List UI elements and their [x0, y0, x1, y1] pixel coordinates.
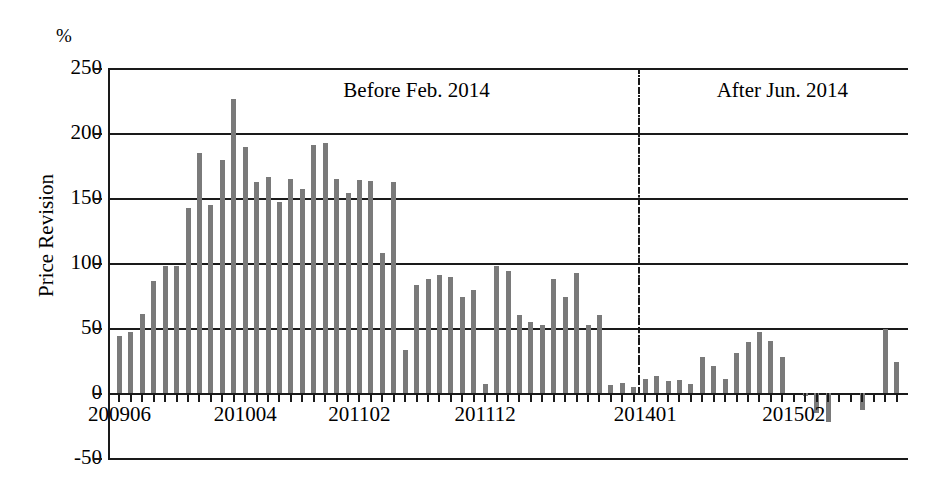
bar	[883, 329, 888, 393]
x-tick-mark	[473, 393, 475, 402]
bar	[151, 281, 156, 393]
bar	[197, 153, 202, 394]
bar	[551, 279, 556, 393]
x-axis-tick-marks	[108, 393, 908, 402]
x-tick-mark	[187, 393, 189, 402]
x-tick-mark	[576, 393, 578, 402]
y-axis-tick-labels: 250200150100500-50	[40, 68, 102, 458]
bar	[243, 147, 248, 393]
bar	[266, 177, 271, 393]
x-tick-mark	[198, 393, 200, 402]
x-tick-mark	[884, 393, 886, 402]
x-tick-label: 201112	[454, 404, 515, 425]
bar	[734, 353, 739, 393]
y-tick-mark	[93, 458, 102, 460]
x-tick-mark	[896, 393, 898, 402]
x-tick-mark	[381, 393, 383, 402]
bar	[380, 253, 385, 393]
bar	[894, 362, 899, 393]
y-tick-mark	[93, 263, 102, 265]
x-tick-mark	[873, 393, 875, 402]
bar	[574, 273, 579, 393]
x-tick-mark	[598, 393, 600, 402]
x-tick-label: 200906	[88, 404, 151, 425]
plot-area: Before Feb. 2014After Jun. 2014	[108, 68, 908, 458]
y-tick-mark	[93, 198, 102, 200]
bar	[494, 266, 499, 393]
bar	[517, 315, 522, 393]
gridline--50	[108, 458, 908, 460]
bar	[666, 381, 671, 393]
x-tick-mark	[621, 393, 623, 402]
bar	[357, 180, 362, 393]
x-tick-mark	[564, 393, 566, 402]
x-tick-mark	[358, 393, 360, 402]
x-tick-mark	[290, 393, 292, 402]
bar	[346, 193, 351, 393]
bar	[448, 277, 453, 393]
bar	[608, 385, 613, 393]
bar	[140, 314, 145, 393]
x-tick-mark	[393, 393, 395, 402]
bar	[391, 182, 396, 393]
x-tick-mark	[736, 393, 738, 402]
x-tick-mark	[678, 393, 680, 402]
bar	[677, 380, 682, 393]
x-tick-mark	[176, 393, 178, 402]
bar	[254, 182, 259, 393]
bar	[208, 205, 213, 394]
x-tick-mark	[690, 393, 692, 402]
x-tick-mark	[450, 393, 452, 402]
x-tick-mark	[461, 393, 463, 402]
x-tick-mark	[701, 393, 703, 402]
x-tick-mark	[301, 393, 303, 402]
x-tick-mark	[541, 393, 543, 402]
bar	[334, 179, 339, 394]
x-tick-mark	[861, 393, 863, 402]
x-tick-mark	[770, 393, 772, 402]
x-tick-mark	[267, 393, 269, 402]
x-tick-mark	[313, 393, 315, 402]
x-tick-mark	[221, 393, 223, 402]
x-tick-mark	[838, 393, 840, 402]
x-tick-label: 201102	[328, 404, 390, 425]
y-tick-mark	[93, 133, 102, 135]
bar	[586, 325, 591, 393]
x-tick-mark	[347, 393, 349, 402]
x-tick-mark	[850, 393, 852, 402]
x-tick-mark	[164, 393, 166, 402]
bar	[711, 366, 716, 393]
x-tick-mark	[233, 393, 235, 402]
bar	[323, 143, 328, 393]
bar	[311, 145, 316, 393]
x-tick-mark	[587, 393, 589, 402]
bar	[528, 322, 533, 394]
x-tick-mark	[644, 393, 646, 402]
y-tick-mark	[93, 393, 102, 395]
annotation-label: After Jun. 2014	[717, 80, 848, 101]
bar	[483, 384, 488, 393]
bar	[688, 384, 693, 393]
bar	[220, 160, 225, 393]
x-tick-mark	[141, 393, 143, 402]
x-tick-mark	[256, 393, 258, 402]
annotation-label: Before Feb. 2014	[343, 80, 489, 101]
x-tick-mark	[118, 393, 120, 402]
regime-divider-dots	[638, 68, 640, 393]
bar	[437, 275, 442, 393]
y-tick-mark	[93, 328, 102, 330]
x-tick-mark	[507, 393, 509, 402]
bar	[620, 383, 625, 393]
bar	[471, 290, 476, 393]
x-tick-mark	[713, 393, 715, 402]
x-tick-mark	[370, 393, 372, 402]
bar	[403, 350, 408, 393]
x-tick-mark	[484, 393, 486, 402]
bar	[186, 208, 191, 393]
x-tick-mark	[438, 393, 440, 402]
x-tick-label: 201502	[762, 404, 825, 425]
bar	[426, 279, 431, 393]
x-tick-mark	[244, 393, 246, 402]
bar	[277, 202, 282, 393]
bar	[540, 325, 545, 393]
